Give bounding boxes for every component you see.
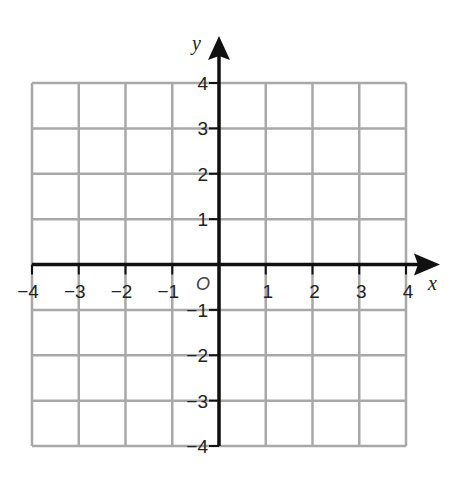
y-tick-label: 2	[197, 164, 208, 185]
axes	[32, 36, 440, 446]
y-tick-label: 1	[197, 209, 208, 230]
x-tick-label: −1	[157, 281, 179, 302]
y-tick-label: −2	[186, 345, 208, 366]
origin-label: O	[196, 274, 210, 294]
y-tick-label: 3	[197, 118, 208, 139]
x-tick-label: −3	[64, 281, 86, 302]
y-axis-label: y	[190, 32, 201, 55]
x-tick-label: 4	[403, 281, 414, 302]
x-tick-label: 2	[309, 281, 320, 302]
y-tick-label: 4	[197, 73, 208, 94]
x-tick-label: 3	[356, 281, 367, 302]
x-tick-label: −4	[17, 281, 39, 302]
y-tick-label: −3	[186, 391, 208, 412]
y-tick-label: −4	[186, 436, 208, 457]
coordinate-plane: −4−3−2−112344321−1−2−3−4 x y O	[0, 0, 463, 483]
y-tick-label: −1	[186, 300, 208, 321]
x-axis-label: x	[427, 272, 437, 294]
x-tick-label: 1	[262, 281, 273, 302]
x-tick-label: −2	[111, 281, 133, 302]
